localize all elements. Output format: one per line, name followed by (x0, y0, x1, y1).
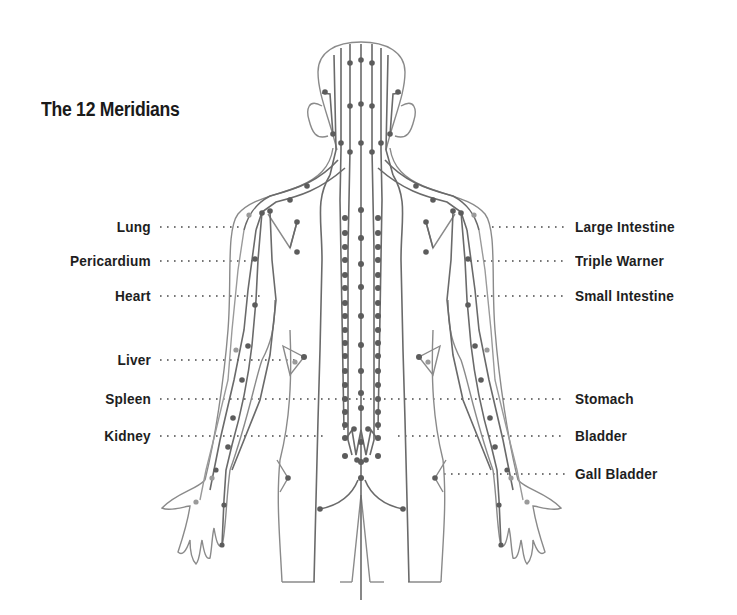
label-gall-bladder: Gall Bladder (575, 465, 657, 483)
label-spleen: Spleen (105, 390, 151, 408)
label-lung: Lung (117, 218, 151, 236)
label-small-intestine: Small Intestine (575, 287, 674, 305)
label-pericardium: Pericardium (70, 252, 151, 270)
label-bladder: Bladder (575, 427, 627, 445)
label-liver: Liver (118, 351, 151, 369)
label-heart: Heart (115, 287, 151, 305)
label-triple-warner: Triple Warner (575, 252, 664, 270)
label-large-intestine: Large Intestine (575, 218, 675, 236)
body-back-view-illustration: .outline{fill:none;stroke:#8a8a8a;stroke… (0, 0, 737, 615)
meridian-lines (200, 44, 523, 600)
label-stomach: Stomach (575, 390, 634, 408)
label-kidney: Kidney (104, 427, 151, 445)
